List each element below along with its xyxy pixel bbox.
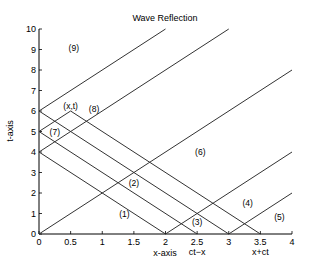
x-tick-label: 1 bbox=[100, 237, 105, 247]
y-tick-label: 1 bbox=[31, 209, 36, 219]
annotation-label: (9) bbox=[69, 43, 80, 53]
y-tick-label: 8 bbox=[31, 65, 36, 75]
y-tick-label: 5 bbox=[31, 127, 36, 137]
annotation-label: (5) bbox=[274, 212, 285, 222]
y-tick-label: 7 bbox=[31, 86, 36, 96]
axes: 00.511.522.533.54012345678910ct−xx+ct bbox=[26, 24, 295, 257]
secondary-x-label: ct−x bbox=[189, 247, 206, 257]
series-line-characteristic-1 bbox=[39, 70, 292, 234]
x-tick-label: 2 bbox=[163, 237, 168, 247]
x-tick-label: 4 bbox=[289, 237, 294, 247]
y-tick-label: 2 bbox=[31, 188, 36, 198]
series-line-characteristic-4 bbox=[39, 29, 229, 152]
series-line-characteristic-10 bbox=[71, 111, 261, 234]
annotation-label: (x,t) bbox=[63, 101, 78, 111]
y-axis-label: t-axis bbox=[5, 120, 15, 142]
annotation-label: (6) bbox=[195, 147, 206, 157]
annotation-label: (1) bbox=[119, 209, 130, 219]
y-tick-label: 0 bbox=[31, 229, 36, 239]
region-annotations: (1)(2)(3)(4)(5)(6)(7)(8)(9)(x,t) bbox=[50, 43, 285, 226]
x-tick-label: 0.5 bbox=[64, 237, 77, 247]
y-tick-label: 4 bbox=[31, 147, 36, 157]
x-tick-label: 1.5 bbox=[128, 237, 141, 247]
secondary-x-label: x+ct bbox=[252, 247, 269, 257]
series-line-characteristic-2 bbox=[166, 152, 293, 234]
x-tick-label: 3.5 bbox=[254, 237, 267, 247]
annotation-label: (3) bbox=[192, 217, 203, 227]
series-line-characteristic-5 bbox=[39, 29, 166, 111]
wave-reflection-chart: Wave Reflection 00.511.522.533.540123456… bbox=[0, 0, 309, 266]
x-tick-label: 0 bbox=[36, 237, 41, 247]
y-tick-label: 6 bbox=[31, 106, 36, 116]
y-tick-label: 3 bbox=[31, 168, 36, 178]
x-tick-label: 3 bbox=[226, 237, 231, 247]
annotation-label: (8) bbox=[89, 104, 100, 114]
chart-title: Wave Reflection bbox=[132, 13, 197, 23]
annotation-label: (4) bbox=[243, 198, 254, 208]
annotation-label: (2) bbox=[129, 178, 140, 188]
annotation-label: (7) bbox=[50, 127, 61, 137]
series-lines bbox=[39, 29, 292, 234]
y-tick-label: 9 bbox=[31, 45, 36, 55]
x-axis-label: x-axis bbox=[153, 248, 177, 258]
x-tick-label: 2.5 bbox=[191, 237, 204, 247]
y-tick-label: 10 bbox=[26, 24, 36, 34]
